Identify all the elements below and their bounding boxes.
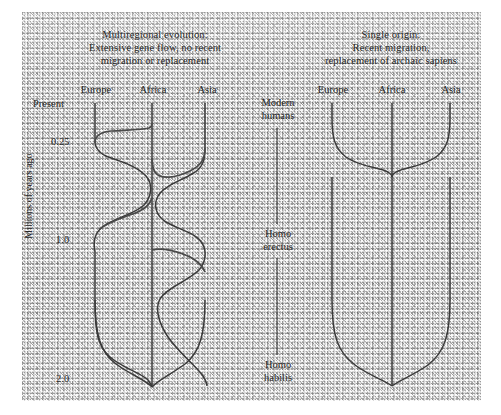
right-panel-lineage-group <box>332 103 450 386</box>
right-lineage-asia <box>392 103 450 177</box>
left-gene-flow-europe-africa-lower <box>100 198 152 229</box>
right-archaic-asia <box>392 177 450 386</box>
left-panel-lineage-group <box>94 103 207 387</box>
diagram-lineart <box>0 0 501 415</box>
left-lineage-europe <box>94 103 152 386</box>
right-archaic-europe <box>332 177 392 386</box>
left-gene-flow-africa-europe-025 <box>95 124 152 143</box>
right-lineage-europe <box>332 103 392 177</box>
left-gene-flow-asia-africa-upper <box>152 148 205 177</box>
left-root-convergence-asia <box>152 300 205 387</box>
left-root-convergence-europe <box>95 300 152 387</box>
left-gene-flow-africa-asia-lower <box>152 249 205 272</box>
figure-root: Multiregional evolution: Extensive gene … <box>0 0 501 415</box>
